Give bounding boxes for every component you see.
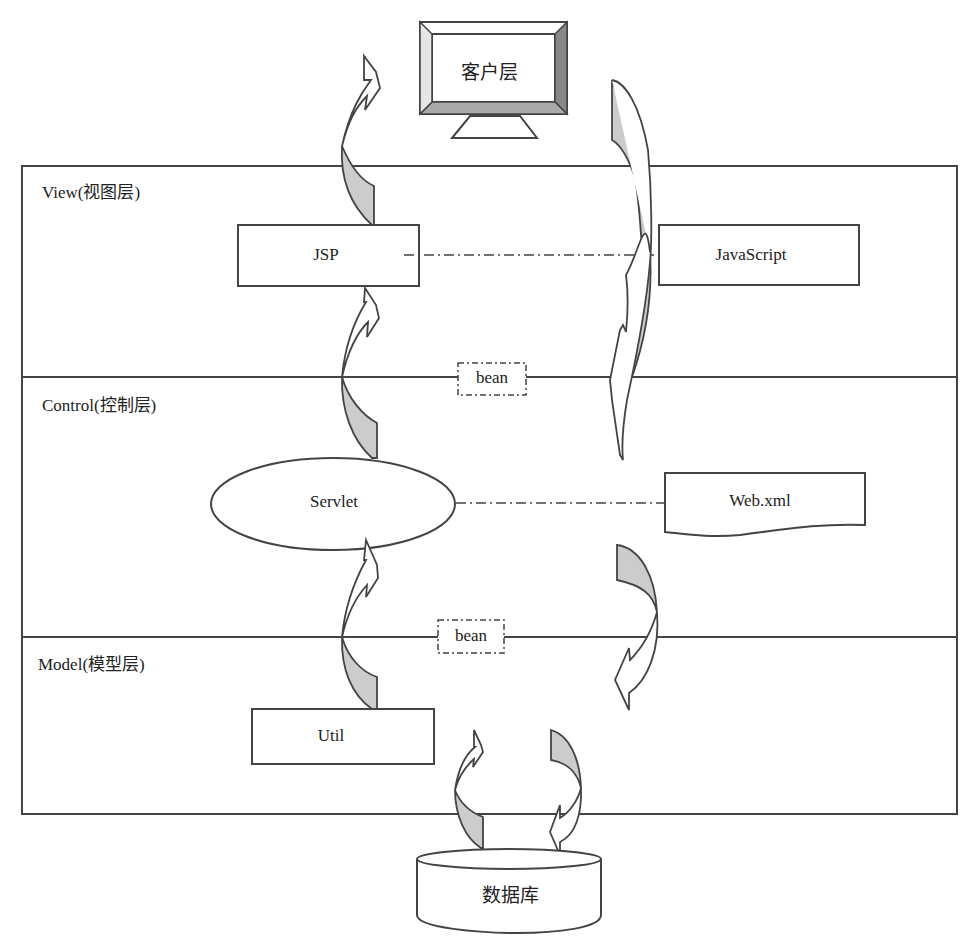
- util-label: Util: [318, 726, 344, 746]
- arrow-up-util-to-servlet-icon: [342, 540, 378, 709]
- view-layer-label: View(视图层): [42, 178, 140, 203]
- arrow-up-servlet-to-jsp-icon: [342, 288, 379, 458]
- client-layer-label: 客户层: [461, 57, 518, 84]
- jsp-label: JSP: [313, 245, 339, 265]
- control-layer-label: Control(控制层): [42, 391, 156, 416]
- bean-label-lower: bean: [455, 626, 487, 646]
- database-label: 数据库: [482, 880, 539, 907]
- arrow-down-model-to-db-icon: [550, 730, 581, 855]
- webxml-label: Web.xml: [729, 491, 790, 511]
- model-layer-label: Model(模型层): [38, 650, 145, 675]
- arrow-up-jsp-to-client-icon: [342, 56, 380, 225]
- arrow-up-db-to-util-icon: [455, 730, 483, 848]
- architecture-diagram: .ln { stroke: #444; stroke-width: 2; fil…: [0, 0, 967, 946]
- servlet-label: Servlet: [310, 492, 358, 512]
- arrow-down-control-to-model-icon: [615, 545, 657, 710]
- bean-label-upper: bean: [476, 368, 508, 388]
- javascript-label: JavaScript: [716, 245, 787, 265]
- arrow-down-client-to-control-icon: [610, 80, 651, 460]
